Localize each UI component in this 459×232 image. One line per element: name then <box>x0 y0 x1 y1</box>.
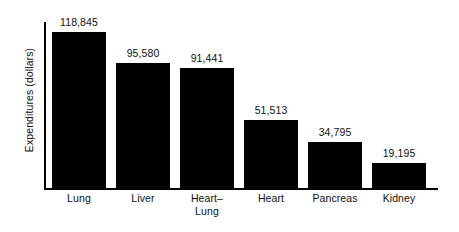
bar-chart-figure: Expenditures (dollars) 118,845Lung95,580… <box>0 0 459 232</box>
x-axis-category-label: Heart– Lung <box>191 192 223 218</box>
bar[interactable] <box>308 142 362 188</box>
bar-group: 51,513Heart <box>244 0 298 232</box>
bar[interactable] <box>244 120 298 188</box>
bar-value-label: 118,845 <box>60 16 98 28</box>
bar[interactable] <box>116 63 170 188</box>
x-axis-category-label: Heart <box>258 192 284 205</box>
bar[interactable] <box>52 32 106 188</box>
bar-group: 95,580Liver <box>116 0 170 232</box>
bar-group: 118,845Lung <box>52 0 106 232</box>
plot-area: 118,845Lung95,580Liver91,441Heart– Lung5… <box>0 0 459 232</box>
bar-group: 19,195Kidney <box>372 0 426 232</box>
bar-group: 91,441Heart– Lung <box>180 0 234 232</box>
bar-value-label: 19,195 <box>383 147 416 159</box>
x-axis-category-label: Lung <box>67 192 91 205</box>
x-axis-category-label: Pancreas <box>312 192 357 205</box>
bar-value-label: 95,580 <box>127 47 160 59</box>
bar-value-label: 34,795 <box>319 126 352 138</box>
bar-value-label: 51,513 <box>255 104 288 116</box>
bar-group: 34,795Pancreas <box>308 0 362 232</box>
bar[interactable] <box>372 163 426 188</box>
bar[interactable] <box>180 68 234 188</box>
x-axis-category-label: Kidney <box>383 192 416 205</box>
bar-value-label: 91,441 <box>191 52 224 64</box>
x-axis-category-label: Liver <box>131 192 154 205</box>
